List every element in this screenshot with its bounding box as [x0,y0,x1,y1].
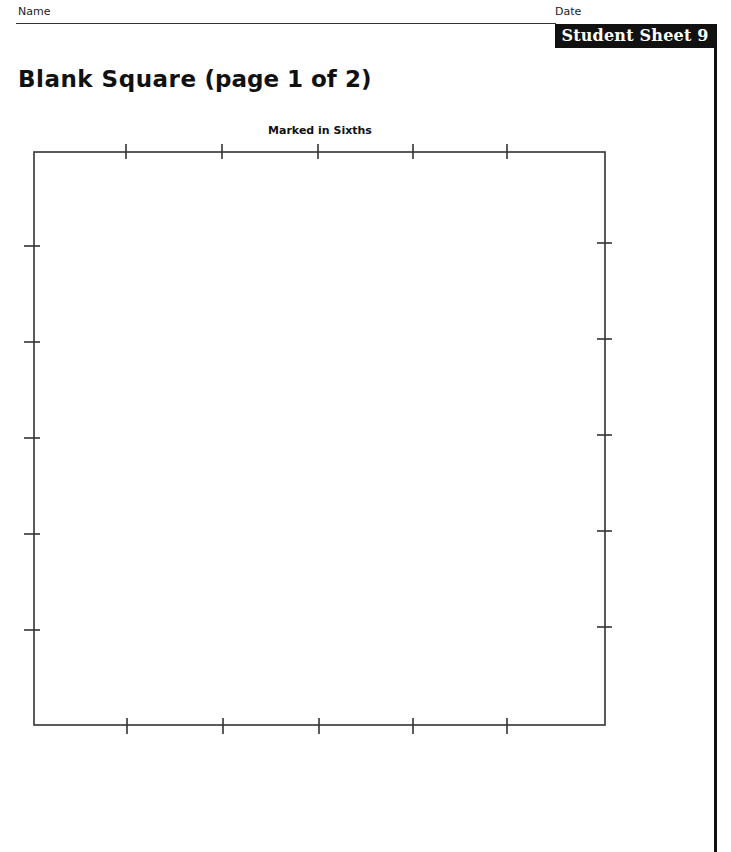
blank-square-figure [0,0,731,852]
square-outline [24,144,612,734]
square-border [34,152,605,725]
